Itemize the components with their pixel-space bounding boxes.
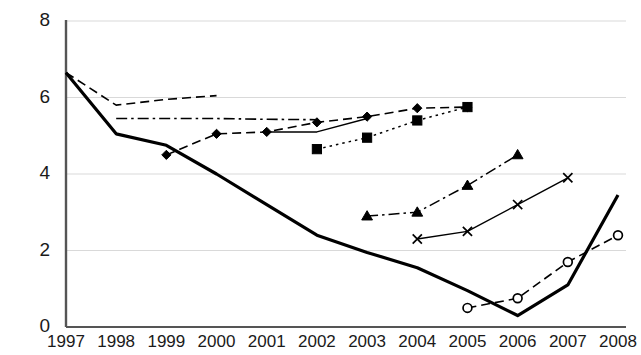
x-tick-label-1998: 1998 (90, 332, 142, 351)
marker-circle-2007 (563, 258, 572, 267)
marker-square-2002 (312, 145, 321, 154)
marker-x-2007 (563, 173, 572, 182)
marker-diamond-2004 (413, 104, 422, 113)
x-tick-label-2000: 2000 (191, 332, 243, 351)
marker-square-2005 (463, 102, 472, 111)
marker-diamond-2001 (262, 127, 271, 136)
x-tick-label-2005: 2005 (441, 332, 493, 351)
x-tick-label-1997: 1997 (40, 332, 92, 351)
marker-triangle-2006 (512, 149, 523, 158)
series-markers (162, 102, 623, 312)
series-line-main-trend (66, 73, 618, 316)
y-tick-label-8: 8 (24, 10, 50, 29)
marker-diamond-1999 (162, 150, 171, 159)
marker-square-2004 (413, 116, 422, 125)
series-lines (66, 73, 618, 316)
x-tick-label-2003: 2003 (341, 332, 393, 351)
x-tick-label-2006: 2006 (492, 332, 544, 351)
series-line-cohort-2005-circle (467, 235, 618, 308)
series-line-cohort-2004-cross (417, 178, 568, 239)
x-tick-label-2004: 2004 (391, 332, 443, 351)
marker-circle-2005 (463, 303, 472, 312)
y-tick-label-6: 6 (24, 87, 50, 106)
marker-triangle-2005 (462, 180, 473, 189)
y-tick-label-4: 4 (24, 163, 50, 182)
marker-x-2006 (513, 200, 522, 209)
x-tick-label-2008: 2008 (592, 332, 641, 351)
marker-circle-2006 (513, 294, 522, 303)
x-tick-label-2001: 2001 (241, 332, 293, 351)
x-tick-label-1999: 1999 (140, 332, 192, 351)
marker-circle-2008 (614, 231, 623, 240)
series-line-cohort-2003-triangle (367, 155, 518, 216)
series-line-cohort-2002-square (317, 107, 468, 149)
marker-triangle-2004 (412, 207, 423, 216)
marker-square-2003 (362, 133, 371, 142)
x-tick-label-2002: 2002 (291, 332, 343, 351)
y-tick-label-2: 2 (24, 240, 50, 259)
series-line-cohort-1998 (116, 119, 317, 120)
x-tick-label-2007: 2007 (542, 332, 594, 351)
marker-diamond-2000 (212, 129, 221, 138)
gridlines (66, 21, 626, 327)
